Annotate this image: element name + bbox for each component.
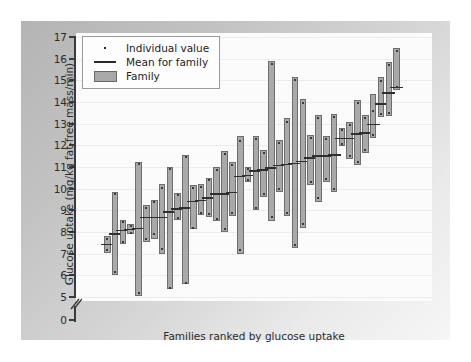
family-range-bar <box>260 150 267 198</box>
individual-value-dot <box>231 212 233 214</box>
legend-label: Individual value <box>126 42 209 54</box>
gridline <box>76 275 432 276</box>
individual-value-dot <box>177 194 179 196</box>
family-range-bar <box>386 62 393 116</box>
individual-value-dot <box>130 232 132 234</box>
family-range-bar <box>190 185 197 228</box>
family-mean-line <box>382 92 395 94</box>
legend-item-family: Family <box>90 69 209 83</box>
individual-value-dot <box>333 188 335 190</box>
individual-value-dot <box>357 102 359 104</box>
family-range-bar <box>378 77 385 117</box>
individual-value-dot <box>278 142 280 144</box>
family-range-bar <box>346 122 353 160</box>
individual-value-dot <box>247 179 249 181</box>
individual-value-dot <box>153 233 155 235</box>
individual-value-dot <box>302 223 304 225</box>
individual-value-dot <box>192 187 194 189</box>
family-range-bar <box>370 94 377 137</box>
x-axis-title: Families ranked by glucose uptake <box>76 330 432 342</box>
individual-value-dot <box>208 213 210 215</box>
individual-value-dot <box>224 228 226 230</box>
dot-marker-icon <box>90 47 120 50</box>
individual-value-dot <box>396 50 398 52</box>
individual-value-dot <box>208 179 210 181</box>
line-marker-icon <box>90 61 120 63</box>
legend-label: Mean for family <box>126 56 208 68</box>
family-range-bar <box>393 48 400 90</box>
individual-value-dot <box>349 124 351 126</box>
gridline <box>76 254 432 255</box>
individual-value-dot <box>161 187 163 189</box>
individual-value-dot <box>341 129 343 131</box>
family-range-bar <box>300 99 307 228</box>
family-range-bar <box>284 118 291 216</box>
individual-value-dot <box>364 149 366 151</box>
family-mean-line <box>367 124 380 126</box>
individual-value-dot <box>255 138 257 140</box>
individual-value-dot <box>153 201 155 203</box>
gridline <box>76 210 432 211</box>
individual-value-dot <box>263 152 265 154</box>
individual-value-dot <box>271 216 273 218</box>
individual-value-dot <box>333 116 335 118</box>
individual-value-dot <box>255 207 257 209</box>
family-range-bar <box>362 115 369 153</box>
individual-value-dot <box>130 225 132 227</box>
individual-value-dot <box>317 117 319 119</box>
individual-value-dot <box>325 138 327 140</box>
individual-value-dot <box>286 212 288 214</box>
individual-value-dot <box>239 249 241 251</box>
individual-value-dot <box>357 161 359 163</box>
family-mean-line <box>328 154 341 156</box>
family-range-bar <box>323 136 330 183</box>
family-range-bar <box>268 61 275 221</box>
family-range-bar <box>143 205 150 242</box>
legend-item-mean-for-family: Mean for family <box>90 55 209 69</box>
individual-value-dot <box>200 212 202 214</box>
individual-value-dot <box>263 193 265 195</box>
family-range-bar <box>167 167 174 289</box>
individual-value-dot <box>278 188 280 190</box>
individual-value-dot <box>341 143 343 145</box>
individual-value-dot <box>114 271 116 273</box>
individual-value-dot <box>185 156 187 158</box>
figure-root: 0567891011121314151617 Glucose uptake (m… <box>0 0 471 362</box>
individual-value-dot <box>169 168 171 170</box>
y-axis-title-wrapper: Glucose uptake (mg/kg fat-free mass/min) <box>30 0 50 340</box>
individual-value-dot <box>169 287 171 289</box>
individual-value-dot <box>138 163 140 165</box>
y-axis-title: Glucose uptake (mg/kg fat-free mass/min) <box>63 49 75 299</box>
individual-value-dot <box>372 110 374 112</box>
individual-value-dot <box>145 238 147 240</box>
individual-value-dot <box>302 102 304 104</box>
individual-value-dot <box>106 238 108 240</box>
family-range-bar <box>331 114 338 192</box>
individual-value-dot <box>364 117 366 119</box>
individual-value-dot <box>106 249 108 251</box>
individual-value-dot <box>349 155 351 157</box>
individual-value-dot <box>177 217 179 219</box>
chart-legend: Individual value Mean for family Family <box>82 36 220 89</box>
y-axis-tick <box>69 36 74 38</box>
family-range-bar <box>315 115 322 202</box>
individual-value-dot <box>122 221 124 223</box>
family-range-bar <box>159 184 166 253</box>
individual-value-dot <box>216 218 218 220</box>
individual-value-dot <box>138 292 140 294</box>
individual-value-dot <box>192 227 194 229</box>
family-range-bar <box>237 136 244 254</box>
family-range-bar <box>182 155 189 284</box>
individual-value-dot <box>380 113 382 115</box>
individual-value-dot <box>224 153 226 155</box>
box-marker-icon <box>90 71 120 82</box>
individual-value-dot <box>388 64 390 66</box>
individual-value-dot <box>310 181 312 183</box>
individual-value-dot <box>286 121 288 123</box>
legend-item-individual-value: Individual value <box>90 41 209 55</box>
individual-value-dot <box>161 248 163 250</box>
legend-label: Family <box>126 70 160 82</box>
individual-value-dot <box>294 244 296 246</box>
family-range-bar <box>229 162 236 216</box>
individual-value-dot <box>239 140 241 142</box>
